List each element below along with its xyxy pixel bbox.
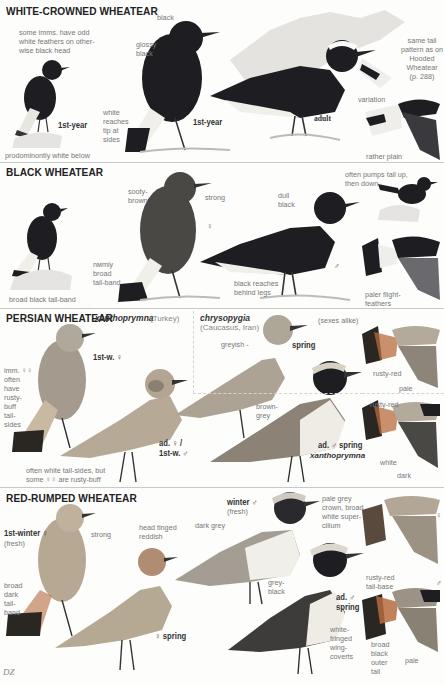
age-label-spring: spring [292, 340, 315, 350]
label-imm-females-rusty: imm. ♀♀ often have rusty- buff tail- sid… [4, 366, 32, 429]
label-black: black [157, 13, 174, 22]
label-dark-grey: dark grey [195, 521, 225, 530]
age-label-1st-w-female: 1st-w. ♀ [93, 352, 122, 362]
label-white-tail-sides: often white tail-sides, but some ♀♀ are … [26, 466, 105, 484]
label-brown-grey: brown- grey [256, 402, 278, 420]
age-label-ad-female: ad. ♀ / 1st-w. ♂ [159, 438, 188, 458]
label-rusty-red-tail-base: rusty-red tail-base [366, 573, 394, 591]
label-dull-black: dull black [278, 191, 295, 209]
section-divider [0, 308, 444, 309]
label-variation: variation [358, 95, 385, 104]
label-rusty-red-1: rusty-red [373, 369, 401, 378]
subspecies-xanthoprymna: xanthoprymna [95, 313, 154, 323]
label-black-reaches: black reaches behind legs [234, 279, 278, 297]
label-fresh-1: (fresh) [4, 539, 25, 548]
label-white-reaches: white reaches tip at sides [103, 108, 129, 144]
label-pale: pale [399, 384, 413, 393]
label-pale-rr: pale [405, 656, 419, 665]
black-wheatear-small-bird [10, 203, 72, 290]
subspecies-chrysopygia: chrysopygia [200, 313, 250, 323]
age-label-male: ♂ [334, 261, 340, 271]
label-grey-black: grey- black [268, 578, 285, 596]
white-crowned-small-bird [12, 60, 70, 148]
section-title-black: BLACK WHEATEAR [6, 166, 103, 178]
label-white-fringed: white- fringed wing- coverts [330, 625, 353, 661]
label-glossy-black: glossy black [136, 40, 156, 58]
label-sooty-brown: sooty- brown [128, 187, 148, 205]
persian-flying-bird-2 [392, 402, 440, 468]
label-rusty-red-2: rusty-red [370, 400, 398, 409]
age-label-winter-male: winter ♂ [227, 497, 257, 507]
section-title-white-crowned: WHITE-CROWNED WHEATEAR [6, 5, 158, 17]
section-title-red-rumped: RED-RUMPED WHEATEAR [6, 492, 137, 504]
section-divider [0, 487, 444, 488]
label-narrow-tail-band: nмmly broad tail-band [93, 260, 121, 287]
section-divider [0, 162, 444, 163]
label-fresh-2: (fresh) [227, 507, 248, 516]
label-broad-black-tail-band: broad black tail-band [9, 295, 76, 304]
age-label-female: ♀ [207, 221, 213, 231]
label-dark: dark [397, 471, 411, 480]
red-rumped-flying-bird-2 [392, 588, 440, 652]
age-label-1st-year-small: 1st-year [58, 120, 87, 130]
label-greyish: greyish - [221, 340, 249, 349]
label-pumps-tail: often pumps tail up, then down [345, 170, 408, 188]
label-white: white [380, 458, 397, 467]
age-label-spring-female: ♀ spring [155, 631, 186, 641]
label-sexes-alike: (sexes alike) [318, 316, 358, 325]
age-label-xanthoprymna: xanthoprymna [310, 451, 365, 460]
flight-divider [362, 393, 444, 394]
age-label-male-symbol: ♂ [436, 578, 442, 588]
red-rumped-flying-bird-1 [384, 496, 440, 564]
label-paler-flight-feathers: paler flight- feathers [365, 290, 401, 308]
label-pale-grey-crown: pale grey crown, broad white super- cili… [322, 494, 364, 530]
label-predominantly-white: prodominontly white below [5, 151, 90, 160]
subspecies-region-caucasus: (Caucasus, Iran) [200, 323, 259, 332]
label-rather-plain: rather plain [366, 152, 402, 161]
label-same-tail: same tail pattern as on Hooded Wheatear … [400, 36, 443, 81]
persian-flying-bird-1 [392, 326, 440, 388]
subspecies-region-turkey: (Turkey) [150, 314, 179, 323]
age-label-ad-male-spring: ad. ♂ spring [318, 440, 362, 450]
label-broad-dark-tail-band: broad dark tail- band [4, 581, 22, 617]
white-crowned-flying-bird [398, 100, 440, 161]
artist-signature: DZ [3, 667, 15, 677]
field-guide-plate: WHITE-CROWNED WHEATEAR some imms. have o… [0, 0, 444, 685]
label-broad-black-outer-tail: broad black outer tail [371, 640, 389, 676]
age-label-1st-winter-female: 1st-winter ♀ [4, 528, 48, 538]
age-label-female-symbol: ♀ [436, 510, 442, 520]
label-strong: strong [205, 193, 225, 202]
age-label-adult: adult [314, 113, 331, 123]
age-label-1st-year: 1st-year [193, 117, 222, 127]
age-label-ad-male-spring-rr: ad. ♂ spring [336, 592, 359, 612]
chrysopygia-box-bottom [193, 393, 363, 394]
chrysopygia-box-left [193, 311, 194, 393]
label-imm-note: some imms. have odd white feathers on ot… [19, 28, 95, 55]
label-strong-rr: strong [91, 530, 111, 539]
label-head-tinged: head tinged reddish [139, 523, 177, 541]
